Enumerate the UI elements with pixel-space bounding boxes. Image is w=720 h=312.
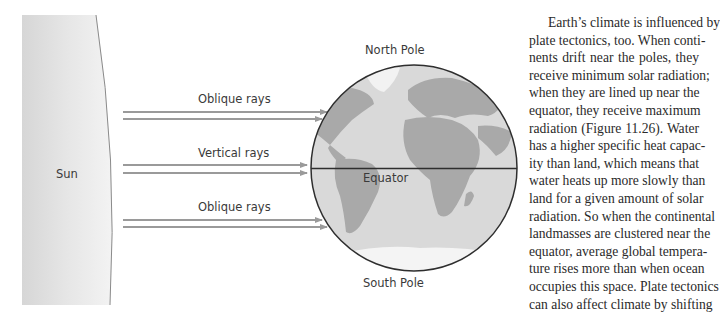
ray-group-oblique-south: Oblique rays	[123, 200, 327, 227]
earth-globe: Equator North Pole South Pole	[311, 43, 520, 290]
text-line: equator, they receive maximum	[529, 102, 699, 120]
text-line: has a higher specific heat capac-	[529, 137, 699, 155]
text-line: ture rises more than when ocean	[529, 260, 699, 278]
text-line: when they are lined up near the	[529, 84, 699, 102]
text-line: ity than land, which means that	[529, 155, 699, 173]
text-line: plate tectonics, too. When conti-	[529, 32, 699, 50]
text-line: receive minimum solar radiation;	[529, 67, 699, 85]
sun-earth-radiation-diagram: Sun Oblique rays Vertical rays Oblique r…	[0, 0, 525, 312]
text-line: landmasses are clustered near the	[529, 225, 699, 243]
landmass-europe	[408, 78, 501, 118]
text-line: radiation. So when the continental	[529, 208, 699, 226]
text-line: can also affect climate by shifting	[529, 296, 699, 312]
text-line: radiation (Figure 11.26). Water	[529, 120, 699, 138]
sun: Sun	[22, 15, 112, 305]
sun-body	[22, 15, 112, 305]
south-pole-label: South Pole	[363, 276, 424, 290]
body-paragraph: Earth’s climate is influenced by plate t…	[529, 14, 699, 312]
ray-label-oblique-south: Oblique rays	[198, 200, 271, 214]
ray-group-oblique-north: Oblique rays	[123, 92, 327, 119]
ray-group-vertical: Vertical rays	[123, 146, 307, 173]
text-line: water heats up more slowly than	[529, 172, 699, 190]
text-line: nents drift near the poles, they	[529, 49, 699, 67]
text-line: occupies this space. Plate tectonics	[529, 278, 699, 296]
text-line: Earth’s climate is influenced by	[529, 14, 699, 32]
sun-label: Sun	[56, 167, 78, 181]
north-pole-label: North Pole	[365, 43, 425, 57]
text-line: land for a given amount of solar	[529, 190, 699, 208]
equator-label: Equator	[363, 171, 408, 185]
ray-label-oblique-north: Oblique rays	[198, 92, 271, 106]
text-line: equator, average global tempera-	[529, 243, 699, 261]
ray-label-vertical: Vertical rays	[198, 146, 269, 160]
